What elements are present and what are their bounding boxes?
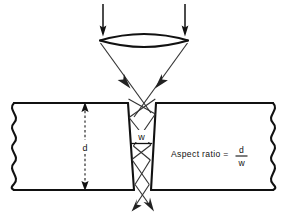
laser-kerf-aspect-ratio-diagram: Laser beam focusing and kerf aspect rati… [0,0,287,220]
diagram-root: Laser beam focusing and kerf aspect rati… [0,0,287,220]
depth-label: d [82,143,87,153]
aspect-ratio-formula: Aspect ratio = d w [171,145,248,168]
lens-upper-surface [100,34,188,41]
workpiece-left-block [12,103,134,190]
wavy-break-line-icon-left [12,103,16,190]
wavy-break-line-icon-right [271,103,275,190]
incoming-beam-group [100,4,189,37]
width-dimension-group: w [130,130,152,144]
kerf-ray-a4 [132,160,149,185]
kerf-ray-b4 [135,160,150,185]
width-label: w [137,132,145,142]
converging-rays-group [101,43,188,117]
formula-lead-text: Aspect ratio = [171,149,229,159]
workpiece-right-block [151,103,275,190]
lens-lower-surface [100,41,188,48]
converging-ray-right-arrowhead [155,74,168,89]
biconvex-lens-icon [100,34,188,47]
formula-numerator: d [239,145,244,155]
exit-ray-left-arrowhead [132,199,142,212]
depth-dimension-group: d [78,102,92,191]
formula-denominator: w [237,158,245,168]
kerf-ray-b3 [133,146,150,160]
